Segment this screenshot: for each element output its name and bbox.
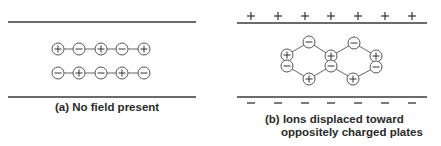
negative-ion-icon bbox=[73, 43, 85, 55]
positive-ion-icon bbox=[281, 49, 293, 61]
positive-ion-icon bbox=[138, 43, 150, 55]
positive-ion-icon bbox=[73, 67, 85, 79]
negative-ion-icon bbox=[325, 60, 337, 72]
plus-sign-icon bbox=[274, 12, 282, 20]
positive-ion-icon bbox=[52, 43, 64, 55]
positive-ion-icon bbox=[95, 43, 107, 55]
panel-b-caption-line2: oppositely charged plates bbox=[281, 126, 423, 139]
plus-sign-icon bbox=[301, 12, 309, 20]
negative-ion-icon bbox=[303, 36, 315, 48]
negative-ion-icon bbox=[370, 61, 382, 73]
plus-sign-icon bbox=[327, 12, 335, 20]
negative-ion-icon bbox=[95, 67, 107, 79]
positive-ion-icon bbox=[303, 73, 315, 85]
positive-ion-icon bbox=[347, 73, 359, 85]
plus-sign-icon bbox=[381, 12, 389, 20]
negative-ion-icon bbox=[138, 67, 150, 79]
negative-ion-icon bbox=[348, 37, 360, 49]
negative-ion-icon bbox=[116, 43, 128, 55]
panel-a-caption: (a) No field present bbox=[55, 101, 159, 114]
positive-ion-icon bbox=[116, 67, 128, 79]
plus-sign-icon bbox=[247, 12, 255, 20]
plus-sign-icon bbox=[408, 12, 416, 20]
negative-ion-icon bbox=[52, 67, 64, 79]
panel-b-caption-line1: (b) Ions displaced toward bbox=[265, 113, 404, 126]
positive-ion-icon bbox=[370, 50, 382, 62]
plus-sign-icon bbox=[354, 12, 362, 20]
top-plate-charges bbox=[247, 12, 416, 20]
negative-ion-icon bbox=[281, 60, 293, 72]
panel-b-ions bbox=[281, 36, 382, 85]
